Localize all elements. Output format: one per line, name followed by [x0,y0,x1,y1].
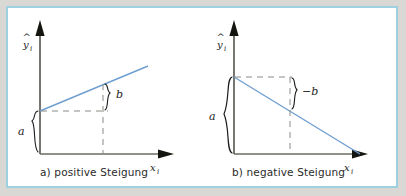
figure-root: a b y ^ i x i a) positive Steigung [0,0,406,196]
x-axis-label-positive: x i [150,162,159,176]
y-axis-negative [229,20,238,154]
y-axis-sub-positive: i [30,45,32,53]
y-axis-hat-positive: ^ [23,31,31,42]
x-axis-label-negative: x i [344,162,353,176]
caption-negative-slope: b) negative Steigung [232,166,345,178]
x-axis-sub-negative: i [351,168,353,176]
intercept-label-negative: a [209,110,216,123]
y-axis-label-negative: y ^ i [216,31,226,53]
y-axis-positive [35,20,44,154]
panel-negative-slope: a −b y ^ i x i b) negative Steigung [202,8,396,186]
regression-line-positive [40,66,148,111]
panel-positive-slope: a b y ^ i x i a) positive Steigung [8,8,202,186]
intercept-label-positive: a [18,125,25,138]
x-axis-negative [234,149,368,158]
y-axis-label-positive: y ^ i [22,31,32,53]
caption-positive-slope: a) positive Steigung [40,166,148,178]
x-axis-positive [40,149,174,158]
brace-slope-negative [292,78,297,109]
brace-intercept-positive [32,111,38,152]
slope-label-positive: b [116,88,123,101]
brace-slope-positive [105,84,110,110]
y-axis-sub-negative: i [224,45,226,53]
slope-label-negative: −b [302,85,318,98]
brace-intercept-negative [224,77,232,153]
x-axis-sub-positive: i [157,168,159,176]
x-axis-label-text-positive: x [150,162,156,173]
figure-frame: a b y ^ i x i a) positive Steigung [6,6,398,188]
regression-line-negative [234,77,360,154]
y-axis-hat-negative: ^ [217,31,225,42]
